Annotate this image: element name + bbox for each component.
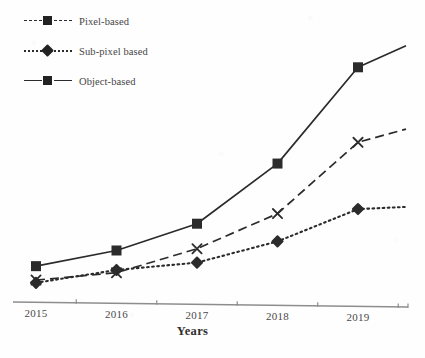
x-axis-line (13, 302, 408, 307)
data-point-marker (192, 219, 202, 229)
data-point-marker (112, 245, 122, 255)
data-point-marker (271, 235, 284, 248)
plot-area (0, 0, 425, 358)
data-point-marker (353, 138, 362, 147)
series-object-based (31, 46, 406, 271)
series-line (36, 129, 406, 280)
x-tick-label-2015: 2015 (13, 307, 59, 319)
figure-canvas: Pixel-based Sub-pixel based Object-based (0, 0, 425, 358)
x-tick-label-2017: 2017 (174, 309, 220, 321)
data-point-marker (353, 62, 363, 72)
data-point-marker (29, 276, 42, 289)
chart-svg (0, 0, 425, 358)
data-point-marker (273, 159, 283, 169)
data-point-marker (351, 203, 364, 216)
data-point-marker (192, 244, 201, 253)
data-point-marker (110, 263, 123, 276)
series-line (36, 46, 406, 267)
x-axis-layer (13, 299, 408, 308)
series-layer (29, 46, 406, 290)
x-tick-label-2018: 2018 (255, 310, 301, 322)
data-point-marker (273, 209, 282, 218)
data-point-marker (190, 256, 203, 269)
x-tick-label-2016: 2016 (94, 308, 140, 320)
data-point-marker (31, 261, 41, 271)
series-line (36, 207, 406, 283)
x-tick-label-2019: 2019 (335, 311, 381, 323)
x-axis-title: Years (0, 324, 425, 339)
x-axis-title-text: Years (177, 324, 208, 338)
